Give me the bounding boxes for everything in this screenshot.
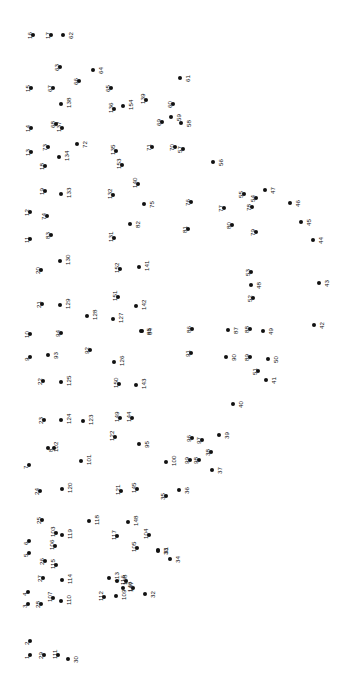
dot-label: 150 <box>113 378 119 388</box>
dot-label: 135 <box>110 145 116 155</box>
dot-label: 154 <box>128 100 134 110</box>
dot-marker <box>57 155 61 159</box>
dot-marker <box>177 488 181 492</box>
dot-label: 48 <box>256 282 262 289</box>
dot-marker <box>317 281 321 285</box>
dot-label: 132 <box>107 189 113 199</box>
dot-marker <box>134 304 138 308</box>
dot-label: 85 <box>146 328 152 335</box>
dot-label: 153 <box>116 159 122 169</box>
dot-marker <box>164 460 168 464</box>
dot-label: 94 <box>55 330 61 337</box>
dot-label: 51 <box>252 368 258 375</box>
dot-label: 54 <box>250 195 256 202</box>
dot-label: 27 <box>37 575 43 582</box>
dot-label: 123 <box>88 415 94 425</box>
dot-label: 16 <box>27 32 33 39</box>
dot-label: 14 <box>25 125 31 132</box>
dot-label: 95 <box>144 441 150 448</box>
dot-label: 77 <box>218 205 224 212</box>
dot-label: 110 <box>66 595 72 605</box>
dot-label: 18 <box>39 163 45 170</box>
dot-label: 152 <box>114 263 120 273</box>
dot-label: 61 <box>185 75 191 82</box>
dot-label: 75 <box>149 201 155 208</box>
dot-label: 23 <box>38 417 44 424</box>
dot-marker <box>87 519 91 523</box>
dot-marker <box>156 549 160 553</box>
dot-label: 92 <box>84 347 90 354</box>
dot-label: 107 <box>47 592 53 602</box>
dot-label: 56 <box>218 159 224 166</box>
dot-marker <box>169 115 173 119</box>
dot-label: 99 <box>184 457 190 464</box>
dot-label: 82 <box>135 221 141 228</box>
dot-label: 34 <box>175 556 181 563</box>
dot-label: 70 <box>169 144 175 151</box>
dot-label: 50 <box>273 356 279 363</box>
dot-label: 13 <box>25 149 31 156</box>
dot-label: 140 <box>132 178 138 188</box>
dot-marker <box>79 459 83 463</box>
dot-label: 131 <box>108 232 114 242</box>
dot-marker <box>58 259 62 263</box>
dot-marker <box>81 419 85 423</box>
dot-label: 65 <box>105 85 111 92</box>
dot-marker <box>59 192 63 196</box>
dot-label: 127 <box>118 313 124 323</box>
dot-label: 83 <box>45 232 51 239</box>
dot-label: 41 <box>271 377 277 384</box>
dot-marker <box>266 357 270 361</box>
dot-label: 21 <box>36 301 42 308</box>
dot-label: 1 <box>24 656 30 659</box>
dot-label: 30 <box>73 656 79 663</box>
dot-marker <box>217 433 221 437</box>
dot-marker <box>143 592 147 596</box>
dot-marker <box>112 360 116 364</box>
dot-label: 73 <box>42 144 48 151</box>
dot-label: 39 <box>224 432 230 439</box>
dot-marker <box>46 353 50 357</box>
dot-marker <box>231 402 235 406</box>
dot-label: 46 <box>295 200 301 207</box>
dot-marker <box>121 586 125 590</box>
dot-label: 20 <box>35 267 41 274</box>
dot-marker <box>139 329 143 333</box>
dot-label: 103 <box>50 527 56 537</box>
dot-label: 93 <box>53 352 59 359</box>
dot-marker <box>168 557 172 561</box>
dot-marker <box>299 220 303 224</box>
dot-label: 40 <box>238 401 244 408</box>
dot-label: 49 <box>268 328 274 335</box>
dot-label: 111 <box>52 650 58 659</box>
dot-label: 117 <box>111 530 117 540</box>
dot-marker <box>111 317 115 321</box>
dot-label: 62 <box>68 32 74 39</box>
dot-marker <box>178 76 182 80</box>
dot-marker <box>46 446 50 450</box>
dot-marker <box>60 487 64 491</box>
dot-label: 78 <box>246 204 252 211</box>
dot-label: 100 <box>171 456 177 466</box>
dot-label: 88 <box>244 326 250 333</box>
dot-marker <box>179 121 183 125</box>
dot-label: 81 <box>182 226 188 233</box>
dot-label: 57 <box>177 146 183 153</box>
dot-label: 149 <box>114 412 120 422</box>
dot-label: 12 <box>24 209 30 216</box>
dot-marker <box>226 328 230 332</box>
dot-label: 128 <box>92 310 98 320</box>
dot-marker <box>224 355 228 359</box>
dot-label: 91 <box>185 350 191 357</box>
dot-label: 72 <box>82 141 88 148</box>
dot-label: 37 <box>217 467 223 474</box>
dot-label: 130 <box>65 255 71 265</box>
dot-label: 64 <box>98 67 104 74</box>
dot-label: 104 <box>143 529 149 539</box>
dot-marker <box>263 188 267 192</box>
dot-label: 60 <box>167 101 173 108</box>
dot-marker <box>66 657 70 661</box>
dot-label: 125 <box>66 376 72 386</box>
dot-label: 44 <box>318 237 324 244</box>
dot-label: 122 <box>109 431 115 441</box>
